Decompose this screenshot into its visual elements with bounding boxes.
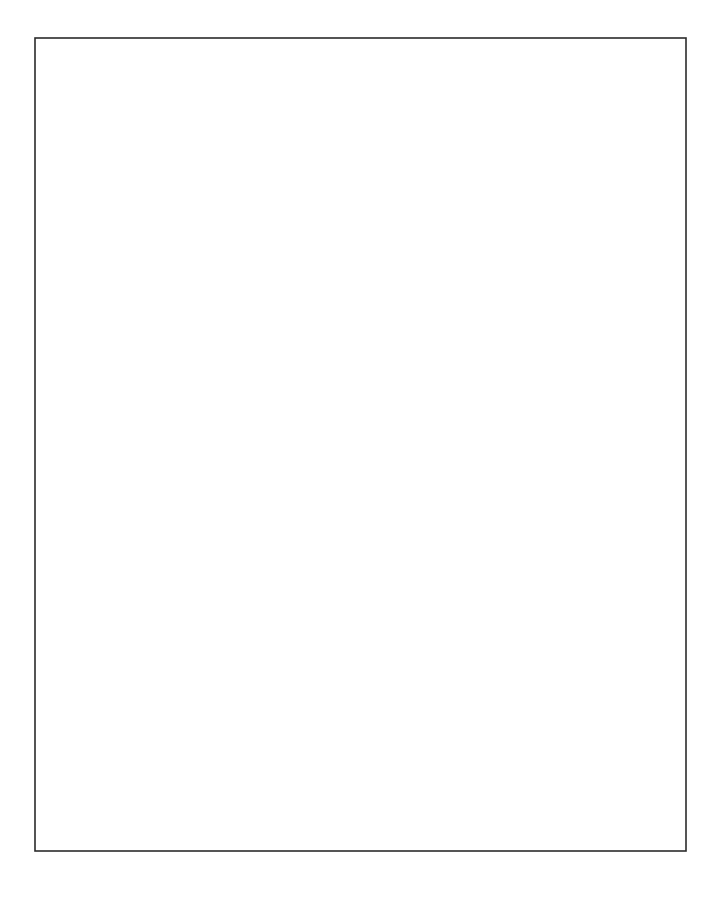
paper-background: [0, 0, 723, 900]
figure-page: [0, 0, 723, 900]
quilt-lattice-figure: [0, 0, 723, 900]
